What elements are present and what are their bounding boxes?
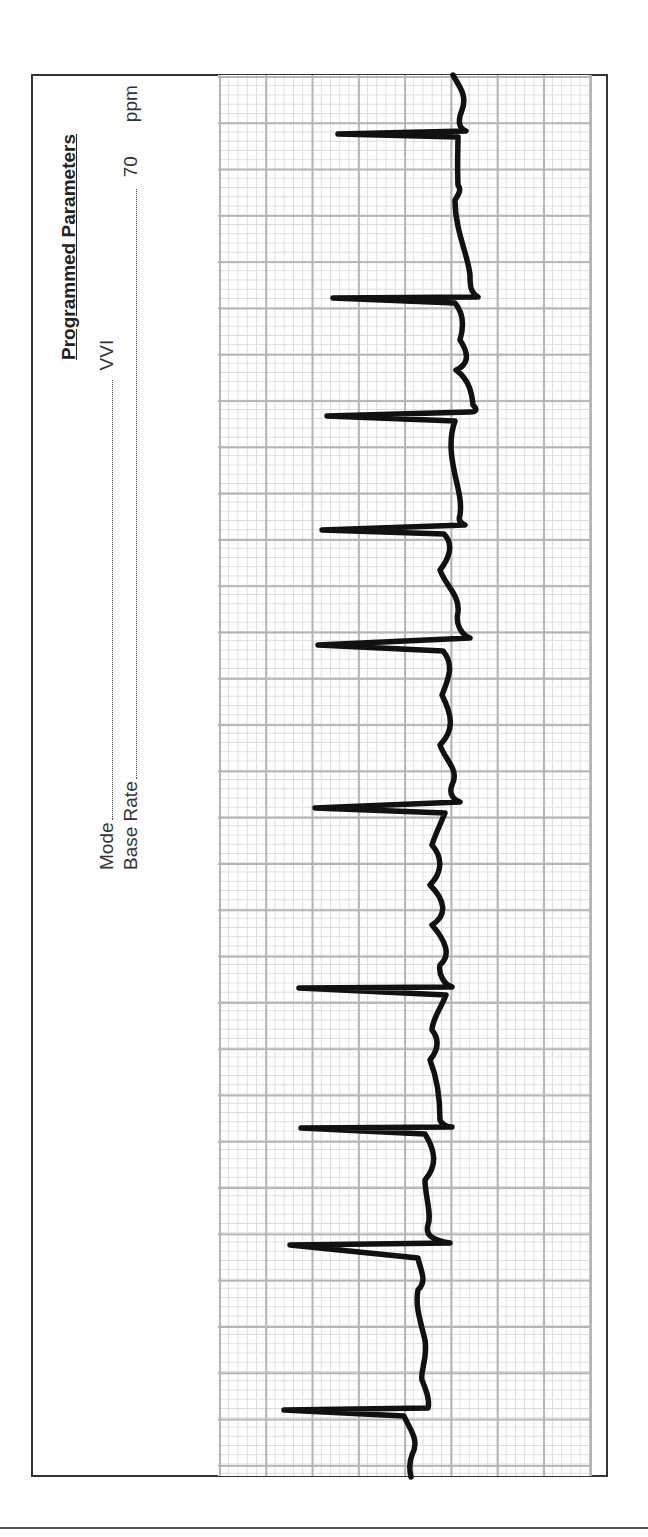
param-row-base-rate: Base Rate70ppm [120,85,142,870]
param-label-base-rate: Base Rate [120,781,141,870]
param-value-mode: VVI [96,340,117,371]
param-row-mode: ModeVVI [96,340,118,870]
panel-title: Programmed Parameters [58,134,80,360]
page-divider [0,1527,648,1529]
programmed-parameters-panel: Programmed Parameters ModeVVI Base Rate7… [0,0,648,1537]
param-unit-base-rate: ppm [120,85,141,122]
param-label-mode: Mode [96,822,117,870]
param-value-base-rate: 70 [120,156,141,177]
leader-dots [135,189,137,779]
leader-dots [111,380,113,820]
